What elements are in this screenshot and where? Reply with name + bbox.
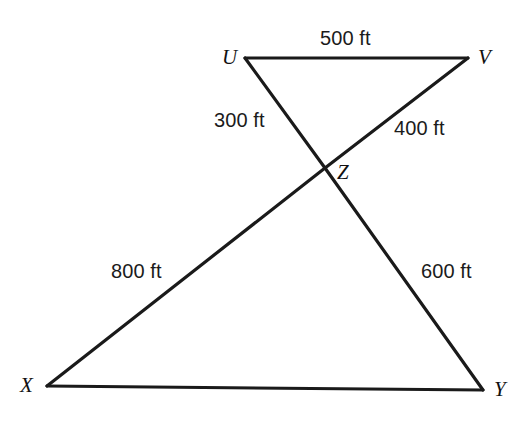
measure-label-yz: 600 ft bbox=[421, 261, 472, 281]
vertex-label-z: Z bbox=[337, 162, 349, 183]
figure-canvas bbox=[0, 0, 527, 427]
segment-vz bbox=[325, 58, 468, 168]
measure-label-uv: 500 ft bbox=[320, 28, 371, 48]
measure-label-uz: 300 ft bbox=[214, 110, 265, 130]
vertex-label-y: Y bbox=[494, 379, 506, 400]
geometry-diagram: U V Z X Y 500 ft 300 ft 400 ft 800 ft 60… bbox=[0, 0, 527, 427]
segment-zx bbox=[47, 168, 325, 386]
measure-label-vz: 400 ft bbox=[394, 118, 445, 138]
measure-label-xz: 800 ft bbox=[111, 261, 162, 281]
vertex-label-x: X bbox=[20, 375, 33, 396]
vertex-label-u: U bbox=[222, 47, 237, 68]
segment-xy bbox=[47, 386, 483, 390]
vertex-label-v: V bbox=[478, 47, 491, 68]
